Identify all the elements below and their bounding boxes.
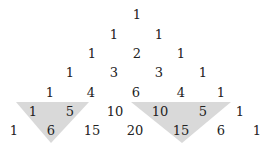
- triangle-entry: 1: [10, 124, 18, 137]
- triangle-entry: 1: [217, 86, 225, 99]
- triangle-entry: 10: [107, 105, 124, 118]
- triangle-entry: 1: [46, 86, 54, 99]
- triangle-entry: 6: [47, 124, 55, 137]
- triangle-entry: 1: [66, 66, 74, 79]
- triangle-entry: 1: [236, 105, 244, 118]
- triangle-entry: 3: [155, 66, 163, 79]
- triangle-entry: 15: [84, 124, 101, 137]
- triangle-entry: 10: [152, 105, 169, 118]
- triangle-entry: 6: [217, 124, 225, 137]
- triangle-entry: 1: [253, 124, 261, 137]
- triangle-entry: 4: [177, 86, 185, 99]
- triangle-entry: 1: [177, 47, 185, 60]
- triangle-entry: 1: [155, 28, 163, 41]
- triangle-entry: 1: [29, 105, 37, 118]
- triangle-entry: 5: [199, 105, 207, 118]
- triangle-entry: 1: [110, 28, 118, 41]
- triangle-entry: 3: [110, 66, 118, 79]
- triangle-entry: 1: [133, 8, 141, 21]
- triangle-entry: 15: [173, 124, 190, 137]
- triangle-entry: 20: [127, 124, 144, 137]
- triangle-entry: 1: [199, 66, 207, 79]
- triangle-entry: 6: [132, 86, 140, 99]
- triangle-entry: 1: [88, 47, 96, 60]
- triangle-entry: 4: [87, 86, 95, 99]
- triangle-entry: 2: [133, 47, 141, 60]
- triangle-entry: 5: [66, 105, 74, 118]
